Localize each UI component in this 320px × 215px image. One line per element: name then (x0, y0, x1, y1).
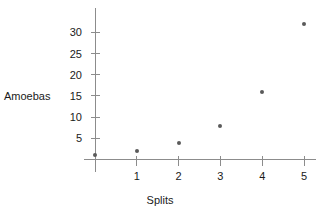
y-tick-label-10: 10 (56, 111, 82, 123)
x-tick-label-4: 4 (252, 170, 272, 182)
y-tick-5 (91, 138, 100, 139)
data-point[interactable] (260, 90, 264, 94)
x-axis-line (84, 159, 316, 160)
x-tick-label-3: 3 (210, 170, 230, 182)
data-point[interactable] (218, 124, 222, 128)
y-tick-25 (91, 53, 100, 54)
y-tick-20 (91, 74, 100, 75)
y-tick-label-5: 5 (56, 132, 82, 144)
data-point[interactable] (135, 149, 139, 153)
data-point[interactable] (177, 141, 181, 145)
x-tick-label-2: 2 (169, 170, 189, 182)
chart-container: Amoebas Splits 5101520253012345 (0, 0, 320, 215)
data-point[interactable] (93, 153, 97, 157)
x-tick-label-5: 5 (294, 170, 314, 182)
x-tick-4 (262, 156, 263, 166)
x-tick-5 (304, 156, 305, 166)
plot-area: 5101520253012345 (0, 0, 320, 215)
y-tick-label-30: 30 (56, 26, 82, 38)
y-tick-10 (91, 117, 100, 118)
y-tick-label-20: 20 (56, 69, 82, 81)
x-tick-label-1: 1 (127, 170, 147, 182)
x-tick-1 (136, 156, 137, 166)
y-tick-label-15: 15 (56, 90, 82, 102)
y-tick-15 (91, 95, 100, 96)
x-tick-3 (220, 156, 221, 166)
data-point[interactable] (302, 22, 306, 26)
y-tick-label-25: 25 (56, 48, 82, 60)
y-tick-30 (91, 32, 100, 33)
x-tick-2 (178, 156, 179, 166)
